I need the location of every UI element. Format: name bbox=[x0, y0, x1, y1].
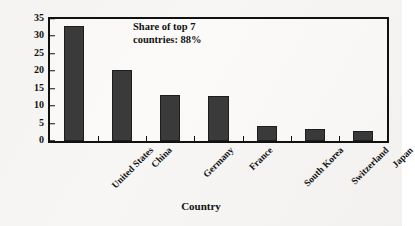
y-axis-tick bbox=[50, 36, 55, 37]
bar bbox=[208, 96, 228, 141]
x-axis-title: Country bbox=[0, 200, 402, 212]
annotation-top-7-share: Share of top 7 countries: 88% bbox=[133, 20, 263, 46]
bar bbox=[353, 131, 373, 141]
y-axis-tick bbox=[50, 88, 55, 89]
annotation-line-1: Share of top 7 bbox=[133, 20, 263, 33]
x-axis-tick bbox=[98, 136, 99, 142]
y-axis-tick bbox=[50, 140, 55, 141]
x-axis-tick bbox=[339, 136, 340, 142]
annotation-line-2: countries: 88% bbox=[133, 33, 263, 46]
x-tick-label: United States bbox=[110, 145, 155, 190]
y-axis-tick bbox=[50, 53, 55, 54]
x-axis-tick-labels: United StatesChinaGermanyFranceSouth Kor… bbox=[48, 145, 385, 203]
bar bbox=[160, 95, 180, 141]
y-axis-tick bbox=[50, 123, 55, 124]
y-tick-label: 25 bbox=[34, 46, 44, 57]
bar bbox=[64, 26, 84, 141]
y-tick-label: 5 bbox=[39, 116, 44, 127]
y-axis-tick-labels: 05101520253035 bbox=[22, 17, 44, 139]
x-tick-label: Japan bbox=[390, 145, 415, 170]
y-tick-label: 20 bbox=[34, 64, 44, 75]
x-tick-label: South Korea bbox=[302, 145, 345, 188]
x-axis-tick bbox=[243, 136, 244, 142]
x-axis-tick bbox=[291, 136, 292, 142]
x-tick-label: Switzerland bbox=[349, 145, 390, 186]
bar bbox=[112, 70, 132, 141]
y-tick-label: 35 bbox=[34, 12, 44, 23]
y-axis-tick bbox=[50, 71, 55, 72]
y-axis-tick bbox=[50, 105, 55, 106]
y-tick-label: 15 bbox=[34, 81, 44, 92]
x-tick-label: China bbox=[149, 145, 174, 170]
y-axis-tick bbox=[50, 18, 55, 19]
x-tick-label: France bbox=[247, 145, 274, 172]
x-tick-label: Germany bbox=[202, 145, 236, 179]
bar bbox=[257, 126, 277, 141]
y-tick-label: 0 bbox=[39, 134, 44, 145]
bar bbox=[305, 129, 325, 141]
y-tick-label: 10 bbox=[34, 99, 44, 110]
x-axis-tick bbox=[146, 136, 147, 142]
y-tick-label: 30 bbox=[34, 29, 44, 40]
x-axis-tick bbox=[194, 136, 195, 142]
